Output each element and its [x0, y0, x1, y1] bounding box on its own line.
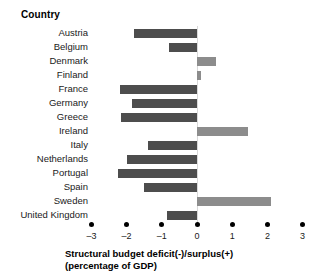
- bar-france: [120, 85, 197, 94]
- country-label-germany: Germany: [0, 96, 88, 110]
- bar-united-kingdom: [167, 211, 197, 220]
- chart-row: Austria: [0, 26, 318, 40]
- x-axis-title-line1: Structural budget deficit(-)/surplus(+): [65, 248, 315, 260]
- country-label-portugal: Portugal: [0, 166, 88, 180]
- bar-sweden: [197, 197, 271, 206]
- tick-dot--3: [89, 222, 94, 227]
- chart-row: Greece: [0, 110, 318, 124]
- tick-label-1: 1: [220, 231, 244, 241]
- country-label-france: France: [0, 82, 88, 96]
- bar-belgium: [169, 43, 197, 52]
- chart-row: Ireland: [0, 124, 318, 138]
- chart-row: Germany: [0, 96, 318, 110]
- tick-label--3: –3: [79, 231, 103, 241]
- tick-dot--1: [159, 222, 164, 227]
- plot-area: AustriaBelgiumDenmarkFinlandFranceGerman…: [0, 26, 318, 222]
- country-label-greece: Greece: [0, 110, 88, 124]
- bar-denmark: [197, 57, 216, 66]
- x-axis: –3–2–10123: [0, 222, 318, 248]
- chart-row: Italy: [0, 138, 318, 152]
- tick-label--2: –2: [115, 231, 139, 241]
- chart-row: France: [0, 82, 318, 96]
- bar-italy: [148, 141, 197, 150]
- chart-row: Spain: [0, 180, 318, 194]
- chart-row: Netherlands: [0, 152, 318, 166]
- tick-dot--2: [124, 222, 129, 227]
- country-label-spain: Spain: [0, 180, 88, 194]
- tick-label-0: 0: [185, 231, 209, 241]
- country-label-united-kingdom: United Kingdom: [0, 208, 88, 222]
- chart-row: United Kingdom: [0, 208, 318, 222]
- bar-portugal: [118, 169, 197, 178]
- bar-spain: [144, 183, 197, 192]
- tick-label-3: 3: [291, 231, 315, 241]
- country-label-italy: Italy: [0, 138, 88, 152]
- country-label-ireland: Ireland: [0, 124, 88, 138]
- country-label-finland: Finland: [0, 68, 88, 82]
- tick-label--1: –1: [150, 231, 174, 241]
- bar-netherlands: [127, 155, 197, 164]
- chart-row: Denmark: [0, 54, 318, 68]
- country-label-netherlands: Netherlands: [0, 152, 88, 166]
- bar-austria: [134, 29, 197, 38]
- bar-ireland: [197, 127, 248, 136]
- tick-dot-2: [265, 222, 270, 227]
- x-axis-title: Structural budget deficit(-)/surplus(+) …: [65, 248, 315, 272]
- structural-budget-chart: Country AustriaBelgiumDenmarkFinlandFran…: [0, 0, 318, 280]
- x-axis-title-line2: (percentage of GDP): [65, 260, 315, 272]
- country-label-belgium: Belgium: [0, 40, 88, 54]
- chart-row: Belgium: [0, 40, 318, 54]
- country-label-sweden: Sweden: [0, 194, 88, 208]
- column-header-country: Country: [21, 9, 60, 20]
- country-label-austria: Austria: [0, 26, 88, 40]
- tick-label-2: 2: [255, 231, 279, 241]
- chart-row: Portugal: [0, 166, 318, 180]
- tick-dot-3: [300, 222, 305, 227]
- chart-row: Sweden: [0, 194, 318, 208]
- country-label-denmark: Denmark: [0, 54, 88, 68]
- bar-greece: [121, 113, 197, 122]
- chart-row: Finland: [0, 68, 318, 82]
- bar-germany: [132, 99, 197, 108]
- tick-dot-0: [195, 222, 200, 227]
- bar-finland: [197, 71, 201, 80]
- tick-dot-1: [230, 222, 235, 227]
